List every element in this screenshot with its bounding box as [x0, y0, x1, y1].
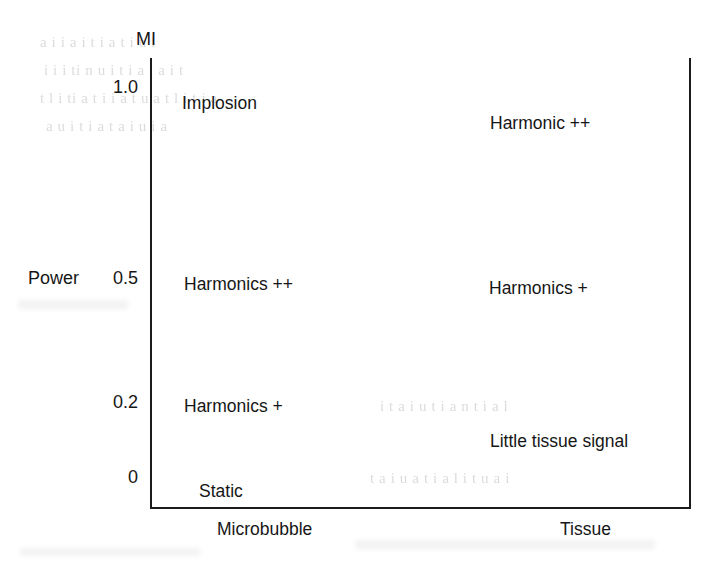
y-tick-label-0-2: 0.2: [78, 393, 138, 411]
y-axis-unit-title: MI: [136, 30, 156, 48]
annotation-harmonics-plus-plus: Harmonics ++: [184, 276, 293, 294]
y-axis-line: [150, 58, 152, 509]
y-tick-label-0: 0: [78, 468, 138, 486]
annotation-harmonics-plus-right: Harmonics +: [489, 280, 588, 298]
y-axis-title: Power: [28, 269, 79, 287]
annotation-static: Static: [199, 483, 243, 501]
x-axis-label-microbubble: Microbubble: [217, 521, 312, 539]
annotation-harmonics-plus-left: Harmonics +: [184, 398, 283, 416]
y-tick-label-0-5: 0.5: [78, 269, 138, 287]
right-border-line: [689, 58, 691, 509]
y-tick-label-1-0: 1.0: [78, 78, 138, 96]
x-axis-line: [150, 507, 691, 509]
figure-mi-power-chart: MI Power 1.0 0.5 0.2 0 Implosion Harmoni…: [0, 0, 711, 569]
annotation-implosion: Implosion: [182, 95, 257, 113]
annotation-little-tissue-signal: Little tissue signal: [490, 433, 628, 451]
x-axis-label-tissue: Tissue: [560, 521, 611, 539]
annotation-harmonic-plus-plus: Harmonic ++: [490, 115, 590, 133]
